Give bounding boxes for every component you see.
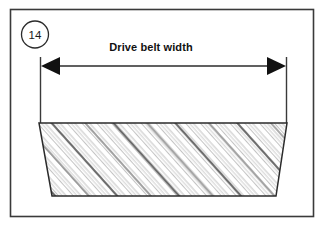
drive-belt-width-diagram: 14 Drive belt width (0, 0, 324, 226)
belt-hatch-accent (30, 115, 300, 205)
figure-number-text: 14 (29, 29, 42, 41)
figure-number-badge: 14 (22, 21, 49, 48)
drive-belt-cross-section (30, 115, 300, 205)
dimension-label: Drive belt width (109, 41, 193, 53)
figure-container: 14 Drive belt width (0, 0, 324, 226)
